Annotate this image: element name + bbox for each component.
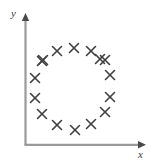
data-point-marker bbox=[31, 94, 40, 103]
data-point-group bbox=[31, 44, 115, 135]
data-point-marker bbox=[87, 120, 96, 129]
y-axis-label: y bbox=[11, 8, 16, 19]
y-axis-arrowhead bbox=[22, 13, 29, 21]
data-point-marker bbox=[71, 126, 80, 135]
x-axis-label: x bbox=[138, 149, 143, 160]
data-point-marker bbox=[106, 71, 115, 80]
data-point-marker bbox=[87, 47, 96, 56]
y-axis bbox=[22, 13, 29, 145]
data-point-marker bbox=[70, 44, 79, 53]
data-point-marker bbox=[31, 74, 40, 83]
data-point-marker bbox=[38, 110, 47, 119]
data-point-marker bbox=[106, 93, 115, 102]
data-point-marker bbox=[101, 108, 110, 117]
data-point-marker bbox=[53, 121, 62, 130]
scatter-plot-figure: y x bbox=[0, 0, 156, 165]
data-point-marker bbox=[53, 47, 62, 56]
plot-canvas bbox=[0, 0, 156, 165]
data-point-marker bbox=[38, 57, 47, 66]
x-axis bbox=[25, 141, 147, 148]
